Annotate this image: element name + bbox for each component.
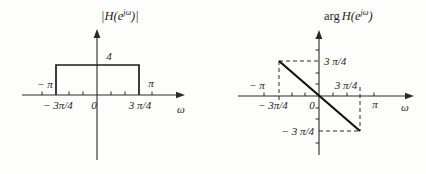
magnitude-title: |H(ejω)| <box>101 8 139 23</box>
magnitude-plot: |H(ejω)| 4 − π π − 3π/4 0 3 π/4 ω <box>22 8 185 160</box>
peak-value-label: 4 <box>106 50 112 62</box>
xtick-label-zero: 0 <box>309 99 315 111</box>
x-axis-arrowhead <box>176 92 185 99</box>
xtick-label-zero: 0 <box>91 99 97 111</box>
xtick-label-pos-pi: π <box>372 98 378 110</box>
y-axis-arrowhead <box>94 29 101 38</box>
xtick-label-pos-3pi4: 3 π/4 <box>128 99 152 111</box>
ytick-label-neg-3pi4: − 3 π/4 <box>282 125 315 137</box>
xtick-label-neg-3pi4: − 3π/4 <box>43 99 73 111</box>
ytick-label-pos-3pi4: 3 π/4 <box>323 55 347 67</box>
omega-axis-label: ω <box>177 103 185 115</box>
x-axis-arrowhead <box>405 93 414 100</box>
omega-axis-label: ω <box>401 101 409 113</box>
xtick-label-neg-3pi4: − 3π/4 <box>258 99 288 111</box>
xtick-label-neg-pi: − π <box>249 79 265 91</box>
xtick-label-pos-pi: π <box>148 77 154 89</box>
xtick-label-pos-3pi4: 3 π/4 <box>334 79 358 91</box>
frequency-response-figure: |H(ejω)| 4 − π π − 3π/4 0 3 π/4 ω <box>0 0 426 174</box>
xtick-label-neg-pi: − π <box>37 78 53 90</box>
phase-plot: argH(ejω) − π − 3π/4 0 3 π/4 π ω 3 π/4 −… <box>238 8 414 155</box>
phase-title: argH(ejω) <box>324 8 373 23</box>
